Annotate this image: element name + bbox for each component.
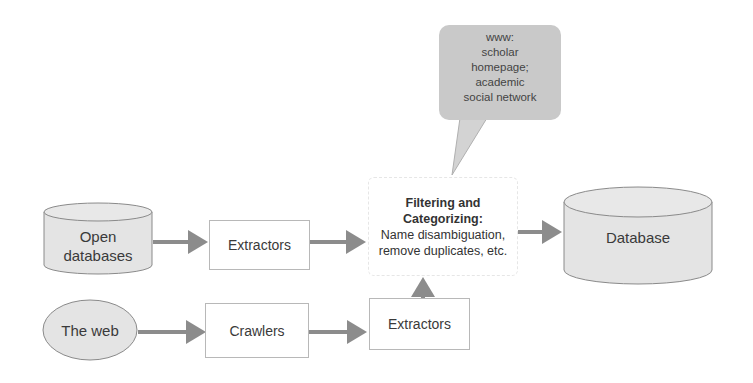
open-databases-node: Open databases [44,222,152,270]
node-label: Open [80,227,117,246]
filtering-description: remove duplicates, etc. [379,243,508,259]
node-label: databases [63,246,132,265]
node-label: Database [606,229,670,246]
callout-line: homepage; [439,60,561,75]
callout-text: www: scholar homepage; academic social n… [439,30,561,105]
callout-line: academic [439,75,561,90]
filtering-node: Filtering and Categorizing: Name disambi… [368,177,518,276]
filtering-title: Filtering and [406,195,481,211]
node-label: Crawlers [229,323,284,339]
callout-line: social network [439,90,561,105]
database-node: Database [564,222,712,252]
callout-line: scholar [439,45,561,60]
node-label: Extractors [388,316,451,332]
extractors-bottom-node: Extractors [369,298,470,350]
filtering-description: Name disambiguation, [381,227,505,243]
node-label: Extractors [228,237,291,253]
crawlers-node: Crawlers [205,303,309,358]
node-label: The web [61,322,119,339]
extractors-top-node: Extractors [209,220,310,270]
filtering-title: Categorizing: [403,211,483,227]
callout-line: www: [439,30,561,45]
the-web-node: The web [43,318,137,342]
